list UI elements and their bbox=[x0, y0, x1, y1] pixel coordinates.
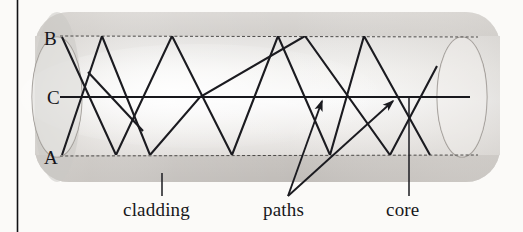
figure-page: B C A cladding paths core bbox=[0, 0, 523, 232]
caption-paths: paths bbox=[263, 199, 304, 220]
caption-cladding: cladding bbox=[123, 199, 190, 220]
caption-core: core bbox=[386, 199, 420, 220]
optical-fiber-diagram: B C A cladding paths core bbox=[0, 0, 523, 232]
label-B: B bbox=[44, 28, 57, 49]
label-A: A bbox=[44, 147, 58, 168]
label-C: C bbox=[47, 87, 60, 108]
fiber-core bbox=[20, 36, 500, 155]
